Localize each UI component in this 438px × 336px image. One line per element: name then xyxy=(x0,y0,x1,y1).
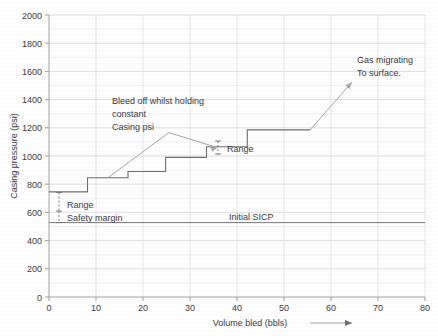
range-right-label: Range xyxy=(227,144,254,154)
x-axis-title: Volume bled (bbls) xyxy=(213,318,288,328)
x-axis-ticks xyxy=(49,297,425,301)
y-tick-label-1000: 1000 xyxy=(22,152,42,162)
x-tick-label-60: 60 xyxy=(326,303,336,313)
y-axis-title: Casing pressure (psi) xyxy=(9,113,19,199)
y-tick-label-600: 600 xyxy=(27,208,42,218)
range-left-label: Range xyxy=(67,200,94,210)
y-axis-ticks xyxy=(45,15,49,297)
bleed-off-note-line1: Bleed off whilst holding xyxy=(112,96,204,106)
rightwards-arrow-icon xyxy=(310,320,352,326)
bleed-off-note-line3: Casing psi xyxy=(112,122,154,132)
x-tick-label-40: 40 xyxy=(232,303,242,313)
gas-migrating-note-line1: Gas migrating xyxy=(357,55,413,65)
x-tick-label-30: 30 xyxy=(185,303,195,313)
y-tick-label-2000: 2000 xyxy=(22,11,42,21)
safety-margin-label: Safety margin xyxy=(67,213,123,223)
casing-pressure-chart: 0 200 400 600 800 1000 1200 1400 1600 18… xyxy=(0,0,438,336)
y-tick-label-1400: 1400 xyxy=(22,95,42,105)
chart-page: 0 200 400 600 800 1000 1200 1400 1600 18… xyxy=(0,0,438,336)
x-tick-label-10: 10 xyxy=(91,303,101,313)
x-tick-label-20: 20 xyxy=(138,303,148,313)
x-tick-label-70: 70 xyxy=(373,303,383,313)
y-tick-label-1600: 1600 xyxy=(22,67,42,77)
y-tick-label-400: 400 xyxy=(27,236,42,246)
gas-migrating-note-line2: To surface. xyxy=(357,68,401,78)
y-tick-label-200: 200 xyxy=(27,264,42,274)
bleed-off-note-line2: constant xyxy=(112,109,147,119)
y-tick-label-0: 0 xyxy=(37,293,42,303)
x-tick-label-0: 0 xyxy=(46,303,51,313)
initial-sicp-label: Initial SICP xyxy=(229,212,274,222)
y-tick-label-1200: 1200 xyxy=(22,123,42,133)
x-tick-label-80: 80 xyxy=(420,303,430,313)
y-tick-label-1800: 1800 xyxy=(22,39,42,49)
x-tick-label-50: 50 xyxy=(279,303,289,313)
y-tick-label-800: 800 xyxy=(27,180,42,190)
